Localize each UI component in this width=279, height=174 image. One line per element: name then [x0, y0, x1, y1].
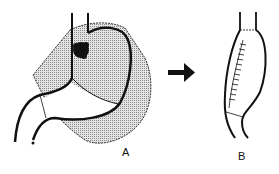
tube-outer-curve	[242, 30, 266, 138]
diagram-canvas	[0, 0, 279, 174]
anastomosis-bottom	[226, 112, 243, 117]
panel-b-label: B	[238, 150, 245, 162]
panel-a-diagram	[15, 13, 151, 145]
panel-a-label: A	[122, 146, 129, 158]
transition-arrow	[168, 63, 195, 82]
panel-b-diagram	[225, 12, 266, 138]
resection-region	[33, 23, 151, 143]
